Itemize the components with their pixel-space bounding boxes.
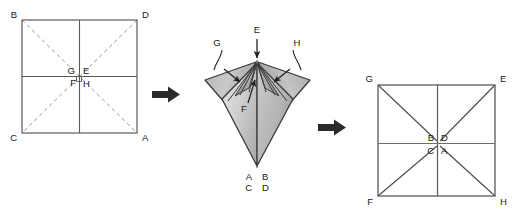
corner-label-bottom-right-1: A [142,132,149,143]
corner-label-top-left-1: B [11,9,17,20]
corner-label-bottom-right-3: H [500,196,507,207]
apex-label-e: E [254,24,260,35]
bottom-label-b: B [262,171,268,182]
center-label-e-1: E [83,65,89,76]
bottom-label-c: C [245,182,252,193]
left-flap-label-g: G [213,37,220,48]
center-label-a-3: A [441,145,448,156]
corner-label-top-right-1: D [142,9,149,20]
right-flap-label-h: H [294,37,301,48]
center-label-b-3: B [428,132,434,143]
bottom-label-d: D [262,182,269,193]
inner-label-f: F [241,103,247,114]
bottom-label-a: A [246,171,253,182]
center-label-d-3: D [441,132,448,143]
corner-label-bottom-left-1: C [10,132,17,143]
center-label-g-1: G [68,65,75,76]
corner-label-bottom-left-3: F [367,196,373,207]
corner-label-top-right-3: E [500,73,506,84]
center-label-c-3: C [427,145,434,156]
center-label-f-1: F [70,77,76,88]
corner-label-top-left-3: G [366,73,373,84]
center-label-h-1: H [83,78,90,89]
figure-root: B D C A G E F H [0,0,512,212]
